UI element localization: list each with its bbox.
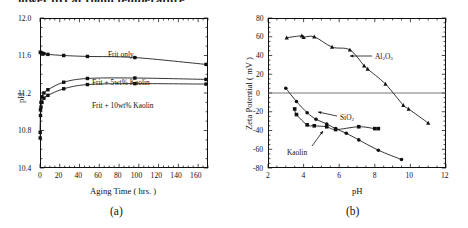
figure-container: lower pH at room temperature. 10.410.811… — [0, 0, 468, 228]
y-tick-label: 11.6 — [18, 51, 31, 60]
y-tick-label: -20 — [253, 107, 263, 116]
y-tick-label: 40 — [256, 51, 264, 60]
y-tick-label: 10.8 — [18, 126, 31, 135]
x-tick-label: 4 — [302, 171, 306, 180]
y-tick-label: 60 — [256, 32, 264, 41]
y-tick-label: 80 — [256, 14, 264, 23]
sio2-text: SiO2 — [340, 113, 354, 122]
y-tick-label: -40 — [253, 126, 263, 135]
x-tick-label: 120 — [151, 171, 162, 180]
x-tick-label: 80 — [114, 171, 122, 180]
y-tick-label: 12.0 — [18, 14, 31, 23]
x-tick-label: 40 — [75, 171, 83, 180]
curve-label-frit-5wt-kaolin: Frit + 5wt% Kaolin — [92, 78, 150, 87]
curve-label-frit-10wt-kaolin: Frit + 10wt% Kaolin — [92, 101, 153, 110]
panel-a-caption: (a) — [110, 205, 123, 217]
x-tick-label: 160 — [190, 171, 201, 180]
curve-label-sio2: SiO2 — [340, 113, 354, 122]
x-tick-label: 100 — [131, 171, 142, 180]
curve-label-al2o3: Al2O3 — [375, 52, 393, 61]
x-tick-label: 20 — [55, 171, 63, 180]
panel-b-y-axis-label: Zeta Potential ( mV ) — [244, 57, 254, 130]
y-tick-label: 0 — [256, 89, 260, 98]
panel-b: -80-60-40-20020406080 24681012 Zeta Pote… — [234, 0, 468, 228]
panel-a-x-axis-label: Aging Time ( hrs. ) — [90, 186, 156, 196]
curve-label-kaolin: Kaolin — [287, 148, 307, 157]
panel-b-caption: (b) — [346, 205, 359, 217]
x-tick-label: 60 — [94, 171, 102, 180]
x-tick-label: 140 — [170, 171, 181, 180]
y-tick-label: 20 — [256, 70, 264, 79]
y-tick-label: -80 — [253, 164, 263, 173]
y-tick-label: -60 — [253, 145, 263, 154]
y-tick-label: 10.4 — [18, 164, 31, 173]
x-tick-label: 6 — [337, 171, 341, 180]
al2o3-text: Al2O3 — [375, 52, 393, 61]
x-tick-label: 0 — [38, 171, 42, 180]
x-tick-label: 12 — [441, 171, 449, 180]
panel-a: 10.410.811.211.612.0 0204060801001201401… — [0, 0, 234, 228]
curve-label-frit-only: Frit only — [108, 50, 134, 59]
panel-b-x-axis-label: pH — [352, 186, 363, 196]
x-tick-label: 2 — [266, 171, 270, 180]
x-tick-label: 10 — [405, 171, 413, 180]
panel-a-y-axis-label: pH — [16, 92, 26, 103]
x-tick-label: 8 — [373, 171, 377, 180]
